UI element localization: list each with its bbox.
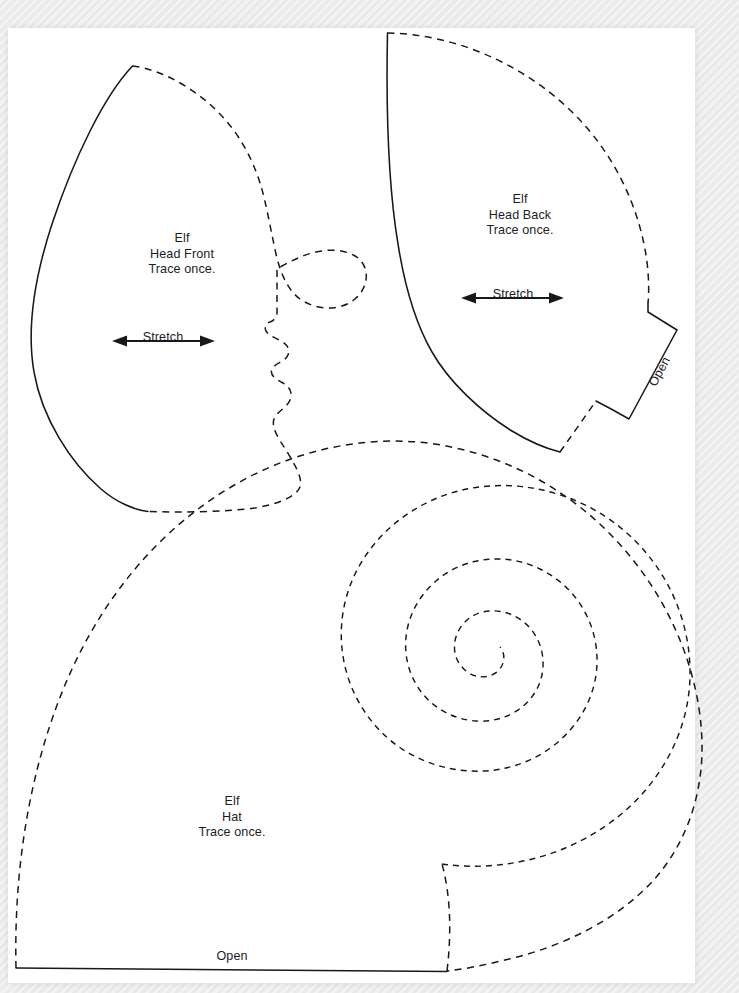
hat-dashed-right-edge bbox=[442, 864, 450, 971]
head-front-solid-edge bbox=[31, 66, 148, 512]
head-back-dashed-arc bbox=[388, 33, 649, 303]
head-back-solid-edge bbox=[387, 33, 560, 452]
piece-head-front bbox=[31, 66, 366, 512]
head-front-label: Elf Head Front Trace once. bbox=[102, 231, 262, 278]
piece-head-back bbox=[387, 33, 677, 452]
hat-open-label: Open bbox=[182, 949, 282, 965]
head-back-label: Elf Head Back Trace once. bbox=[440, 192, 600, 239]
pattern-lines bbox=[0, 0, 739, 993]
piece-hat bbox=[16, 441, 702, 971]
hat-dashed-outer-arc bbox=[16, 441, 702, 971]
head-back-stretch-label: Stretch bbox=[463, 287, 563, 303]
head-front-stretch-label: Stretch bbox=[113, 330, 213, 346]
pattern-sheet-viewport: Elf Head Front Trace once. Stretch Elf H… bbox=[0, 0, 739, 993]
hat-spiral-curl bbox=[341, 486, 690, 867]
hat-open-bottom-edge bbox=[16, 968, 447, 972]
hat-label: Elf Hat Trace once. bbox=[152, 794, 312, 841]
head-front-dashed-profile bbox=[133, 66, 367, 512]
head-back-dashed-notch-edge bbox=[560, 401, 596, 452]
